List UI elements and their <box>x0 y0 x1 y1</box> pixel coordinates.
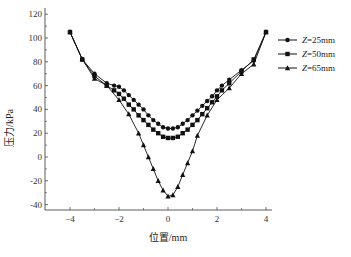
legend-label: Z=25mm <box>302 35 335 45</box>
y-tick-label: 100 <box>29 33 43 43</box>
legend-item: Z=50mm <box>278 49 335 59</box>
y-axis-title: 压力/kPa <box>3 109 15 147</box>
x-tick-label: 2 <box>215 214 220 224</box>
x-tick-label: −4 <box>65 214 75 224</box>
y-tick-label: 0 <box>38 152 43 162</box>
y-tick-label: -40 <box>30 200 42 210</box>
x-tick-label: 0 <box>166 214 171 224</box>
x-tick-label: 4 <box>264 214 269 224</box>
legend-item: Z=65mm <box>278 63 335 73</box>
legend-label: Z=65mm <box>302 63 335 73</box>
series-z-50mm <box>68 30 268 140</box>
legend: Z=25mmZ=50mmZ=65mm <box>278 35 335 73</box>
legend-item: Z=25mm <box>278 35 335 45</box>
y-tick-label: 20 <box>33 128 43 138</box>
y-tick-label: 60 <box>33 81 43 91</box>
y-tick-label: 120 <box>29 9 43 19</box>
y-tick-label: -20 <box>30 176 42 186</box>
y-tick-label: 40 <box>33 104 43 114</box>
pressure-position-chart: -40-20020406080100120−4−2024 Z=25mmZ=50m… <box>0 0 351 257</box>
series-z-65mm <box>67 29 268 198</box>
legend-label: Z=50mm <box>302 49 335 59</box>
x-axis-title: 位置/mm <box>149 231 188 243</box>
y-tick-label: 80 <box>33 57 43 67</box>
x-tick-label: −2 <box>114 214 124 224</box>
series-layer <box>67 29 268 198</box>
